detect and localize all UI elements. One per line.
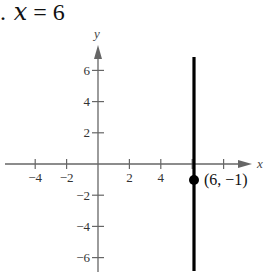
y-tick-label: −2: [76, 188, 90, 203]
x-tick-label: −2: [60, 170, 74, 185]
point-label: (6, −1): [204, 171, 248, 189]
x-axis-label: x: [256, 156, 263, 171]
graph: x y −4−224 642−2−4−6 (6, −1): [0, 0, 268, 275]
y-tick-label: 6: [84, 63, 91, 78]
x-tick-label: −4: [28, 170, 42, 185]
y-tick-label: −4: [76, 219, 90, 234]
x-tick-label: 4: [158, 170, 165, 185]
x-axis-arrow-icon: [238, 160, 252, 168]
y-axis-label: y: [92, 26, 100, 41]
x-tick-label: 2: [126, 170, 133, 185]
y-tick-label: 4: [84, 94, 91, 109]
y-tick-label: 2: [84, 125, 91, 140]
point-6-neg1: [189, 175, 199, 185]
y-tick-label: −6: [76, 250, 90, 265]
y-axis-arrow-icon: [94, 45, 102, 59]
